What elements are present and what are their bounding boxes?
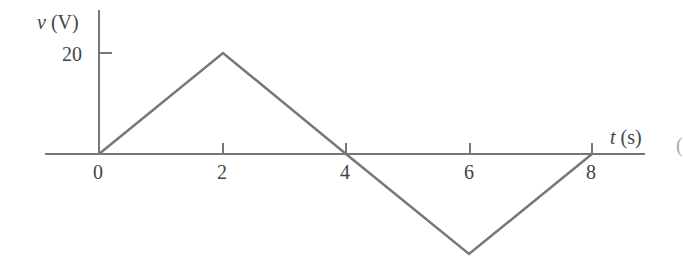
x-axis-label: t (s) — [610, 127, 642, 147]
y-axis-unit: (V) — [51, 11, 79, 33]
edge-fragment: ( — [676, 135, 683, 155]
x-tick-label-0: 0 — [93, 162, 103, 182]
y-axis-var: v — [37, 11, 46, 33]
x-tick-label-2: 2 — [217, 162, 227, 182]
x-tick-label-6: 6 — [464, 162, 474, 182]
x-tick-label-8: 8 — [586, 162, 596, 182]
x-axis-unit: (s) — [621, 126, 642, 148]
y-axis-label: v (V) — [37, 12, 79, 32]
x-tick-label-4: 4 — [340, 162, 350, 182]
y-tick-label-20: 20 — [62, 44, 82, 64]
chart-plot — [0, 0, 683, 274]
x-axis-var: t — [610, 126, 616, 148]
